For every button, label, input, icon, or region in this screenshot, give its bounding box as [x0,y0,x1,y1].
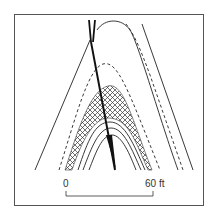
outermost-right-line [142,24,193,170]
fault-fork-right [93,20,95,42]
scale-start-label: 0 [63,179,69,189]
outer-dashed-line [126,24,183,170]
scale-bar [66,191,153,196]
scale-end-label: 60 ft [145,179,164,189]
fold-diagram [0,0,213,217]
fault-thick-tail [106,135,116,170]
fault-fork-left [89,20,91,42]
outer-left-limb-line [35,40,90,170]
